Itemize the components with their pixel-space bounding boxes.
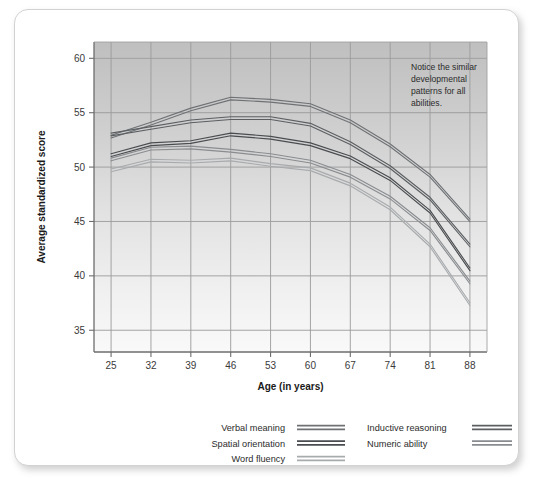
x-axis-tick-labels: 25323946536067748188 xyxy=(106,352,476,371)
y-axis-tick-labels: 354045505560 xyxy=(74,53,94,336)
annotation-line-1: Notice the similar xyxy=(411,62,477,72)
legend-label: Spatial orientation xyxy=(211,439,285,449)
annotation-line-4: abilities. xyxy=(411,98,442,108)
legend-item-word-fluency: Word fluency xyxy=(232,454,345,464)
x-tick-label-74: 74 xyxy=(385,360,397,371)
x-tick-label-32: 32 xyxy=(145,360,157,371)
y-axis-title: Average standardized score xyxy=(36,130,47,263)
annotation-line-3: patterns for all xyxy=(411,86,466,96)
legend-item-spatial-orientation: Spatial orientation xyxy=(211,439,345,449)
x-axis-title: Age (in years) xyxy=(257,381,323,392)
y-tick-label-50: 50 xyxy=(74,162,86,173)
x-tick-label-39: 39 xyxy=(185,360,197,371)
line-chart: 354045505560 25323946536067748188 Averag… xyxy=(15,10,520,467)
x-tick-label-46: 46 xyxy=(225,360,237,371)
legend-label: Verbal meaning xyxy=(221,423,285,433)
annotation-line-2: developmental xyxy=(411,74,467,84)
y-tick-label-35: 35 xyxy=(74,325,86,336)
x-tick-label-81: 81 xyxy=(424,360,436,371)
x-tick-label-53: 53 xyxy=(265,360,277,371)
x-tick-label-60: 60 xyxy=(305,360,317,371)
legend-item-inductive-reasoning: Inductive reasoning xyxy=(367,423,512,433)
legend-label: Numeric ability xyxy=(367,439,428,449)
y-tick-label-55: 55 xyxy=(74,107,86,118)
x-tick-label-88: 88 xyxy=(464,360,476,371)
chart-card: 354045505560 25323946536067748188 Averag… xyxy=(14,9,519,466)
chart-legend: Verbal meaningSpatial orientationWord fl… xyxy=(211,423,512,464)
x-tick-label-25: 25 xyxy=(106,360,118,371)
chart-screenshot-root: 354045505560 25323946536067748188 Averag… xyxy=(0,0,535,481)
legend-item-verbal-meaning: Verbal meaning xyxy=(221,423,345,433)
legend-label: Word fluency xyxy=(232,454,286,464)
y-tick-label-60: 60 xyxy=(74,53,86,64)
x-tick-label-67: 67 xyxy=(345,360,357,371)
legend-item-numeric-ability: Numeric ability xyxy=(367,439,512,449)
legend-label: Inductive reasoning xyxy=(367,423,447,433)
y-tick-label-40: 40 xyxy=(74,270,86,281)
y-tick-label-45: 45 xyxy=(74,216,86,227)
